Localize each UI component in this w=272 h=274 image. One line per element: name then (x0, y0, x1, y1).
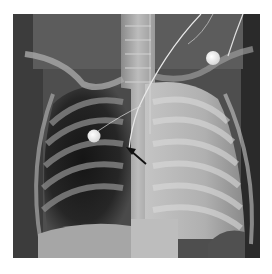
xray-rendering (13, 14, 260, 258)
chest-xray-image (13, 14, 260, 258)
ecg-electrode-right-chest (88, 130, 101, 143)
ecg-electrode-left-shoulder (206, 51, 220, 65)
